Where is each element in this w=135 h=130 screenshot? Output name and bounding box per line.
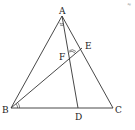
corner-mark: ≈ xyxy=(127,1,131,7)
segment-ab xyxy=(11,16,62,108)
segment-be xyxy=(11,48,82,108)
label-c: C xyxy=(115,105,122,115)
angle-mark-a xyxy=(60,23,64,24)
label-f: F xyxy=(59,52,65,62)
label-e: E xyxy=(85,41,92,51)
label-d: D xyxy=(75,112,82,122)
angle-mark-a-inner xyxy=(60,25,64,26)
triangle-diagram: A B C D E F ≈ xyxy=(0,0,135,130)
label-a: A xyxy=(58,6,66,16)
angle-mark-b-inner xyxy=(18,103,20,108)
angle-mark-b xyxy=(16,104,18,108)
angle-mark-f xyxy=(69,51,75,53)
label-b: B xyxy=(2,105,9,115)
